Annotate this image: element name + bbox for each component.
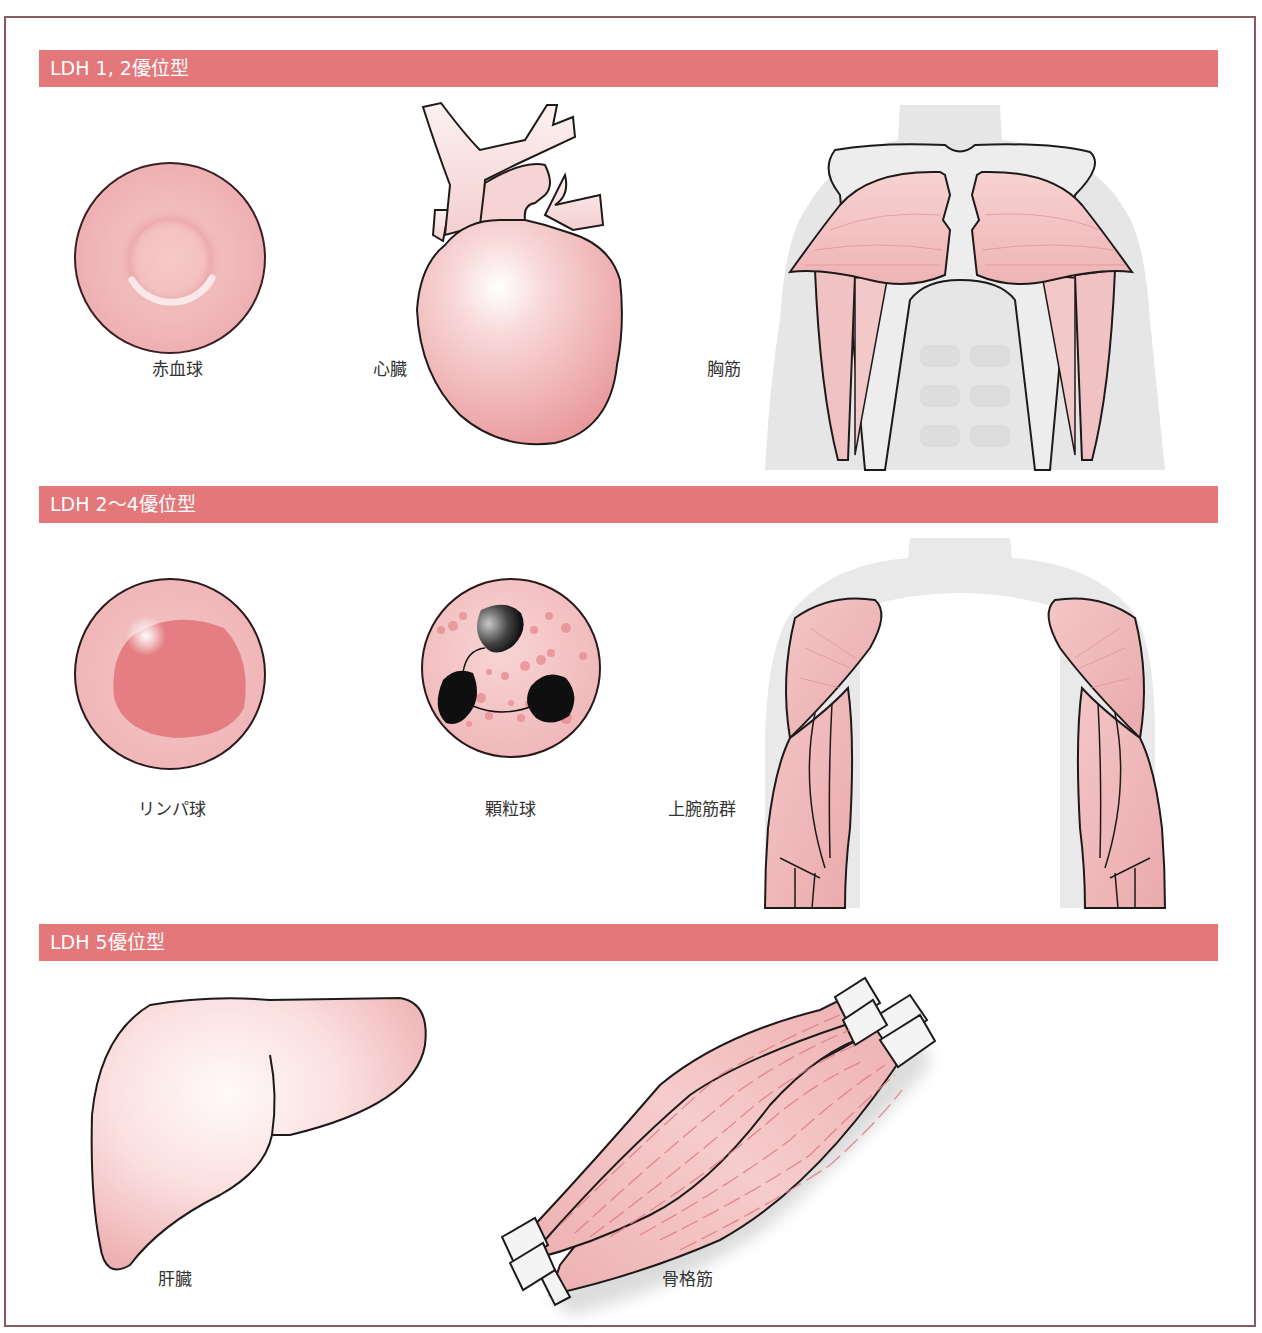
label-granulocyte: 顆粒球 <box>485 795 536 820</box>
label-lymphocyte: リンパ球 <box>138 795 206 820</box>
liver-illustration <box>90 995 430 1275</box>
label-heart: 心臓 <box>373 355 407 380</box>
upper-arm-muscles-illustration <box>760 538 1170 908</box>
section-header-ldh-2-4: LDH 2〜4優位型 <box>39 486 1218 523</box>
label-skeletal-muscle: 骨格筋 <box>662 1265 713 1290</box>
red-blood-cell-illustration <box>72 160 272 360</box>
section-header-ldh-1-2: LDH 1, 2優位型 <box>39 50 1218 87</box>
granulocyte-illustration <box>421 578 601 758</box>
label-liver: 肝臓 <box>158 1265 192 1290</box>
label-red-blood-cell: 赤血球 <box>152 355 203 380</box>
chest-muscles-illustration <box>760 100 1170 470</box>
label-chest-muscles: 胸筋 <box>707 355 741 380</box>
lymphocyte-illustration <box>74 578 274 778</box>
label-upper-arm-muscles: 上腕筋群 <box>668 795 736 820</box>
skeletal-muscle-illustration <box>490 975 940 1315</box>
section-header-ldh-5: LDH 5優位型 <box>39 924 1218 961</box>
heart-illustration <box>405 95 645 465</box>
